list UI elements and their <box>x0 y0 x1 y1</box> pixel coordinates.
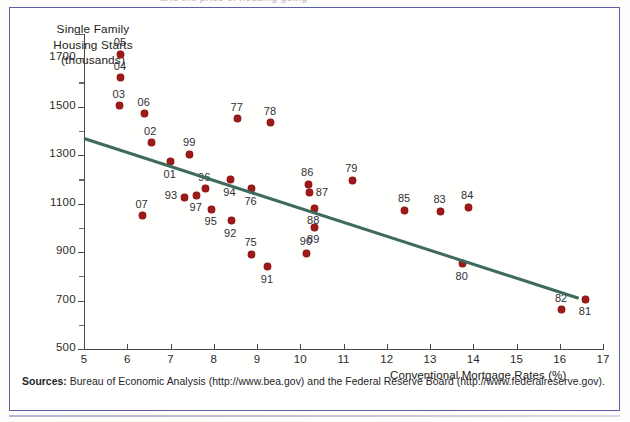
data-point-95 <box>208 206 215 213</box>
data-point-04 <box>117 74 124 81</box>
data-point-81 <box>582 296 589 303</box>
data-point-label-99: 99 <box>183 136 195 148</box>
y-tick-1100 <box>78 204 84 205</box>
data-point-label-90: 90 <box>300 235 312 247</box>
x-tick-label-12: 12 <box>375 353 399 365</box>
y-axis-title-line-1: Single Family <box>28 22 158 38</box>
data-point-93 <box>181 194 188 201</box>
data-point-79 <box>349 177 356 184</box>
y-minor-tick-1400 <box>79 131 84 132</box>
y-minor-tick-1800 <box>79 34 84 35</box>
data-point-label-02: 02 <box>144 125 156 137</box>
data-point-label-05: 05 <box>114 36 126 48</box>
data-point-label-03: 03 <box>112 88 124 100</box>
x-tick-10 <box>300 344 301 350</box>
x-tick-label-7: 7 <box>159 353 183 365</box>
x-tick-8 <box>214 344 215 350</box>
x-tick-label-16: 16 <box>548 353 572 365</box>
data-point-86 <box>305 181 312 188</box>
data-point-02 <box>148 139 155 146</box>
data-point-label-76: 76 <box>244 195 256 207</box>
y-tick-900 <box>78 252 84 253</box>
data-point-label-77: 77 <box>231 101 243 113</box>
x-tick-12 <box>387 344 388 350</box>
x-tick-label-5: 5 <box>72 353 96 365</box>
data-point-label-78: 78 <box>264 105 276 117</box>
data-point-label-75: 75 <box>244 236 256 248</box>
y-tick-label-1500: 1500 <box>10 99 76 111</box>
y-minor-tick-800 <box>79 276 84 277</box>
y-minor-tick-1200 <box>79 179 84 180</box>
data-point-78 <box>267 119 274 126</box>
y-tick-label-700: 700 <box>10 293 76 305</box>
x-tick-15 <box>517 344 518 350</box>
x-tick-label-13: 13 <box>418 353 442 365</box>
data-point-77 <box>234 115 241 122</box>
y-minor-tick-1600 <box>79 82 84 83</box>
y-minor-tick-1000 <box>79 228 84 229</box>
x-tick-9 <box>257 344 258 350</box>
footer-divider <box>9 415 620 417</box>
data-point-label-79: 79 <box>345 162 357 174</box>
y-tick-1500 <box>78 107 84 108</box>
data-point-84 <box>465 204 472 211</box>
data-point-75 <box>248 251 255 258</box>
sources-text: Bureau of Economic Analysis (http://www.… <box>70 376 605 387</box>
data-point-label-81: 81 <box>579 305 591 317</box>
y-tick-1700 <box>78 58 84 59</box>
x-tick-label-11: 11 <box>332 353 356 365</box>
x-tick-7 <box>171 344 172 350</box>
data-point-92 <box>228 217 235 224</box>
plot-area: Single Family Housing Starts (thousands)… <box>10 8 621 412</box>
y-tick-label-500: 500 <box>10 341 76 353</box>
y-tick-label-1100: 1100 <box>10 196 76 208</box>
data-point-label-06: 06 <box>138 96 150 108</box>
sources-note: Sources: Bureau of Economic Analysis (ht… <box>22 376 605 387</box>
y-tick-label-1700: 1700 <box>10 50 76 62</box>
data-point-label-83: 83 <box>433 193 445 205</box>
data-point-97 <box>193 192 200 199</box>
x-tick-label-6: 6 <box>115 353 139 365</box>
x-tick-label-8: 8 <box>202 353 226 365</box>
data-point-label-95: 95 <box>205 215 217 227</box>
data-point-91 <box>264 263 271 270</box>
data-point-label-85: 85 <box>398 192 410 204</box>
y-tick-700 <box>78 301 84 302</box>
data-point-90 <box>303 250 310 257</box>
x-tick-13 <box>430 344 431 350</box>
chart-page: and the price of housing going Single Fa… <box>0 0 630 422</box>
data-point-label-86: 86 <box>301 166 313 178</box>
data-point-label-80: 80 <box>455 270 467 282</box>
x-tick-label-10: 10 <box>288 353 312 365</box>
data-point-label-01: 01 <box>164 168 176 180</box>
data-point-label-97: 97 <box>189 201 201 213</box>
x-tick-label-14: 14 <box>461 353 485 365</box>
y-tick-label-900: 900 <box>10 244 76 256</box>
data-point-96 <box>202 185 209 192</box>
x-tick-17 <box>603 344 604 350</box>
y-tick-label-1300: 1300 <box>10 147 76 159</box>
data-point-83 <box>437 208 444 215</box>
data-point-label-91: 91 <box>261 273 273 285</box>
y-minor-tick-600 <box>79 325 84 326</box>
x-tick-11 <box>344 344 345 350</box>
data-point-label-07: 07 <box>135 198 147 210</box>
data-point-label-04: 04 <box>114 60 126 72</box>
data-point-label-84: 84 <box>461 189 473 201</box>
x-tick-label-17: 17 <box>591 353 615 365</box>
data-point-82 <box>558 306 565 313</box>
data-point-label-92: 92 <box>224 227 236 239</box>
top-cropped-text-label: and the price of housing going <box>160 0 307 3</box>
x-tick-14 <box>473 344 474 350</box>
data-point-label-93: 93 <box>165 189 177 201</box>
x-tick-6 <box>127 344 128 350</box>
data-point-87 <box>306 189 313 196</box>
chart-frame: Single Family Housing Starts (thousands)… <box>9 7 620 411</box>
data-point-06 <box>141 110 148 117</box>
y-axis-line <box>84 34 85 350</box>
top-cropped-text: and the price of housing going <box>0 0 630 6</box>
x-tick-16 <box>560 344 561 350</box>
trend-line <box>84 138 580 300</box>
sources-label: Sources: <box>22 376 67 387</box>
data-point-07 <box>139 212 146 219</box>
